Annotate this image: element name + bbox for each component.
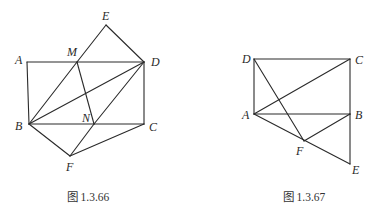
segment-ED xyxy=(106,25,144,62)
segment-FB xyxy=(304,114,350,141)
segment-ND xyxy=(94,62,144,124)
diagram-canvas: AMEDBNCF 图 1.3.66 DCABFE 图 1.3.67 xyxy=(0,0,373,212)
figure-1-caption: 图 1.3.66 xyxy=(67,191,110,203)
segment-ME xyxy=(77,25,106,62)
point-label-N: N xyxy=(81,111,91,125)
segment-AB xyxy=(27,62,29,124)
point-label-E: E xyxy=(101,9,110,23)
point-label-B: B xyxy=(15,119,23,133)
point-label-M: M xyxy=(66,45,78,59)
point-label-F: F xyxy=(65,160,74,174)
point-label-F: F xyxy=(295,144,304,158)
point-label-D: D xyxy=(241,52,251,66)
point-label-A: A xyxy=(14,53,23,67)
point-label-E: E xyxy=(351,163,360,177)
figure-1-segments xyxy=(27,25,144,156)
point-label-C: C xyxy=(149,120,158,134)
segment-DF xyxy=(254,59,304,141)
figure-1-3-67: DCABFE 图 1.3.67 xyxy=(241,52,364,203)
figure-2-caption: 图 1.3.67 xyxy=(283,191,326,203)
figure-1-point-labels: AMEDBNCF xyxy=(14,9,160,174)
segment-FC xyxy=(70,124,144,156)
geometry-figures: AMEDBNCF 图 1.3.66 DCABFE 图 1.3.67 xyxy=(0,0,373,212)
point-label-D: D xyxy=(150,55,160,69)
point-label-C: C xyxy=(355,53,364,67)
segment-BM xyxy=(29,62,77,124)
segment-BF xyxy=(29,124,70,156)
segment-AC xyxy=(254,59,350,114)
point-label-B: B xyxy=(355,108,363,122)
point-label-A: A xyxy=(241,108,250,122)
figure-1-3-66: AMEDBNCF 图 1.3.66 xyxy=(14,9,160,203)
